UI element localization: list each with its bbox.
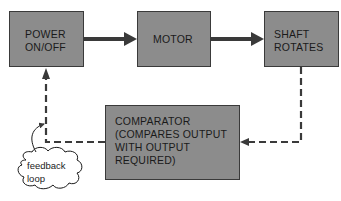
shaft-rotates-label: SHAFT ROTATES <box>274 28 323 54</box>
motor-label: MOTOR <box>153 33 193 46</box>
feedback-loop-label: feedback loop <box>27 159 66 185</box>
shaft-rotates-box: SHAFT ROTATES <box>264 11 339 67</box>
dashed-arrow-shaft-to-comparator <box>240 67 301 146</box>
motor-box: MOTOR <box>137 11 211 67</box>
dashed-arrow-comparator-to-power <box>42 68 105 142</box>
comparator-label: COMPARATOR (COMPARES OUTPUT WITH OUTPUT … <box>115 115 227 167</box>
power-on-off-box: POWER ON/OFF <box>9 11 84 67</box>
arrow-power-to-motor <box>84 32 137 46</box>
arrow-motor-to-shaft <box>211 32 264 46</box>
comparator-box: COMPARATOR (COMPARES OUTPUT WITH OUTPUT … <box>105 105 240 180</box>
power-on-off-label: POWER ON/OFF <box>25 28 66 54</box>
